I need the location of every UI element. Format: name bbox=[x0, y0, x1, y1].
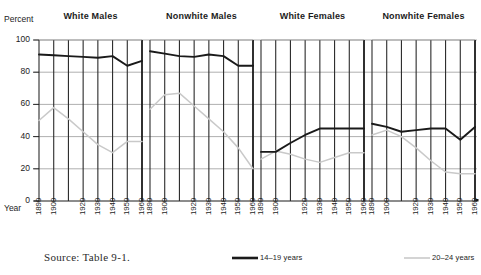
x-tick-label: 1900 bbox=[382, 198, 391, 215]
x-tick-label: 1900 bbox=[49, 198, 58, 215]
panel-title-2: White Females bbox=[261, 11, 364, 21]
y-tick-label: 40 bbox=[8, 131, 30, 141]
panel-title-1: Nonwhite Males bbox=[150, 11, 253, 21]
figure-panel: Percent Year Source: Table 9-1. 02040608… bbox=[0, 0, 481, 275]
y-tick-label: 0 bbox=[8, 195, 30, 205]
x-tick-label: 1930 bbox=[93, 198, 102, 215]
x-tick-label: 1930 bbox=[204, 198, 213, 215]
x-tick-label: 1920 bbox=[411, 198, 420, 215]
x-tick-label: 1890 bbox=[256, 198, 265, 215]
y-tick-label: 80 bbox=[8, 66, 30, 76]
x-tick-label: 1920 bbox=[78, 198, 87, 215]
chart-canvas bbox=[0, 0, 481, 275]
x-tick-label: 1940 bbox=[108, 198, 117, 215]
x-tick-label: 1950 bbox=[122, 198, 131, 215]
x-tick-label: 1890 bbox=[34, 198, 43, 215]
data-line-14-19 bbox=[150, 51, 253, 65]
x-tick-label: 1890 bbox=[367, 198, 376, 215]
y-tick-label: 60 bbox=[8, 98, 30, 108]
x-tick-label: 1960 bbox=[470, 198, 479, 215]
x-tick-label: 1940 bbox=[219, 198, 228, 215]
data-line-14-19 bbox=[39, 54, 142, 65]
data-line-20-24 bbox=[39, 108, 142, 153]
panel-title-0: White Males bbox=[39, 11, 142, 21]
x-tick-label: 1950 bbox=[344, 198, 353, 215]
x-tick-label: 1950 bbox=[233, 198, 242, 215]
source-note: Source: Table 9-1. bbox=[44, 251, 130, 263]
x-tick-label: 1900 bbox=[271, 198, 280, 215]
data-line-14-19 bbox=[372, 124, 475, 140]
x-tick-label: 1900 bbox=[160, 198, 169, 215]
x-tick-label: 1930 bbox=[315, 198, 324, 215]
x-tick-label: 1940 bbox=[330, 198, 339, 215]
x-tick-label: 1920 bbox=[189, 198, 198, 215]
x-tick-label: 1920 bbox=[300, 198, 309, 215]
x-tick-label: 1930 bbox=[426, 198, 435, 215]
panel-title-3: Nonwhite Females bbox=[372, 11, 475, 21]
x-tick-label: 1940 bbox=[441, 198, 450, 215]
data-line-20-24 bbox=[261, 151, 364, 162]
legend-label-1: 20–24 years bbox=[432, 253, 474, 262]
y-tick-label: 20 bbox=[8, 163, 30, 173]
legend-label-0: 14–19 years bbox=[260, 253, 302, 262]
y-axis-title: Percent bbox=[4, 14, 33, 24]
x-tick-label: 1950 bbox=[455, 198, 464, 215]
data-line-14-19 bbox=[261, 129, 364, 152]
x-tick-label: 1890 bbox=[145, 198, 154, 215]
y-tick-label: 100 bbox=[8, 34, 30, 44]
